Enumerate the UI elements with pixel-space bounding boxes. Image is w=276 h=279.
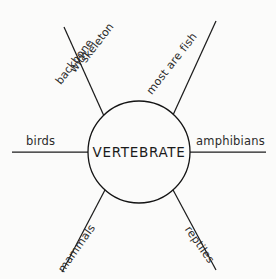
diagram-surface: VERTEBRATE birds amphibians skeleton wit… xyxy=(0,0,276,279)
node-label-birds: birds xyxy=(26,134,55,148)
node-label-amphibians: amphibians xyxy=(196,134,265,148)
diagram-canvas: VERTEBRATE birds amphibians skeleton wit… xyxy=(0,0,276,279)
center-label: VERTEBRATE xyxy=(93,144,186,160)
